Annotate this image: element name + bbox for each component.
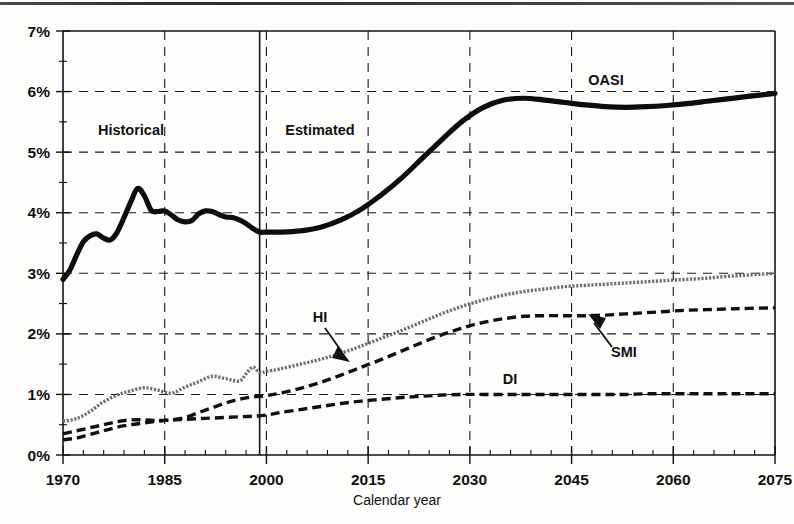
x-tick-label: 1970 xyxy=(46,471,80,488)
series-line-smi xyxy=(63,308,775,434)
x-tick-label: 2030 xyxy=(453,471,487,488)
y-tick-label: 2% xyxy=(28,325,51,342)
y-tick-label: 4% xyxy=(28,204,51,221)
x-tick-label: 2045 xyxy=(554,471,589,488)
y-tick-label: 0% xyxy=(28,447,51,464)
x-tick-label: 1985 xyxy=(147,471,182,488)
y-tick-label: 6% xyxy=(28,83,51,100)
series-label-hi: HI xyxy=(313,309,328,325)
series-label-smi: SMI xyxy=(611,344,637,360)
series-label-di: DI xyxy=(503,371,518,387)
y-tick-label: 5% xyxy=(28,144,51,161)
y-tick-label: 7% xyxy=(28,23,51,40)
series-line-hi xyxy=(63,273,775,421)
smi-leader-line xyxy=(588,314,612,347)
series-line-di xyxy=(63,394,775,440)
chart-figure: 0%1%2%3%4%5%6%7%197019852000201520302045… xyxy=(0,0,794,524)
axis-tick-labels: 0%1%2%3%4%5%6%7%197019852000201520302045… xyxy=(28,23,793,489)
y-tick-label: 3% xyxy=(28,265,51,282)
x-tick-label: 2060 xyxy=(656,471,690,488)
x-tick-label: 2075 xyxy=(758,471,793,488)
trust-fund-cost-rate-chart: 0%1%2%3%4%5%6%7%197019852000201520302045… xyxy=(0,0,794,524)
series-line-oasi xyxy=(63,93,775,279)
series-label-oasi: OASI xyxy=(588,72,623,88)
axis-ticks xyxy=(56,31,775,464)
x-tick-label: 2000 xyxy=(249,471,283,488)
region-label-estimated: Estimated xyxy=(285,122,354,138)
region-label-historical: Historical xyxy=(98,122,164,138)
x-axis-title: Calendar year xyxy=(353,492,441,508)
y-tick-label: 1% xyxy=(28,386,51,403)
x-tick-label: 2015 xyxy=(351,471,386,488)
gridlines xyxy=(63,31,775,455)
plot-axes xyxy=(63,31,775,455)
data-series xyxy=(63,93,775,439)
hi-leader-line xyxy=(325,328,350,362)
